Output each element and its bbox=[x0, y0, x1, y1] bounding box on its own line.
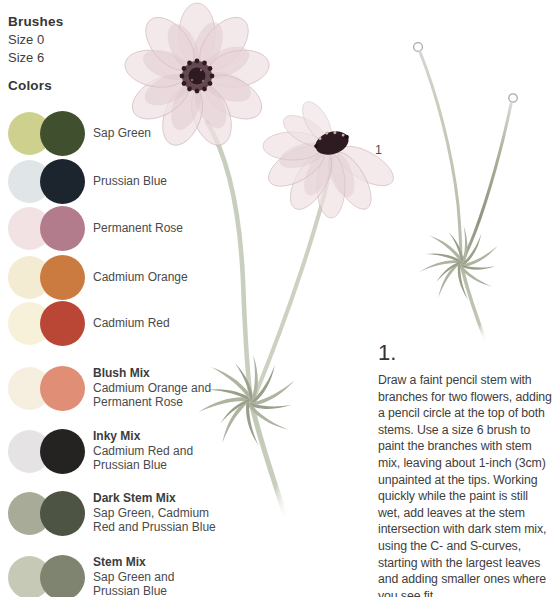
swatch-name: Dark Stem Mix bbox=[93, 491, 219, 506]
stem-main bbox=[251, 402, 287, 520]
swatch-dark-dot bbox=[40, 206, 85, 251]
swatch-row-blush-mix: Blush Mix Cadmium Orange and Permanent R… bbox=[8, 360, 219, 416]
step-stem-a bbox=[414, 43, 461, 262]
swatch-label: Cadmium Orange bbox=[93, 270, 219, 285]
flower-side bbox=[262, 97, 399, 218]
pencil-circle-a bbox=[414, 43, 423, 52]
swatch-label: Blush Mix Cadmium Orange and Permanent R… bbox=[93, 366, 219, 410]
swatch-label: Stem Mix Sap Green and Prussian Blue bbox=[93, 555, 219, 597]
flower-side-center bbox=[311, 126, 352, 159]
swatch-name: Permanent Rose bbox=[93, 221, 219, 236]
swatch-label: Prussian Blue bbox=[93, 174, 219, 189]
swatch-name: Inky Mix bbox=[93, 429, 219, 444]
swatch-dark-dot bbox=[40, 111, 85, 156]
colors-heading: Colors bbox=[8, 78, 52, 93]
swatch-description: Cadmium Red and Prussian Blue bbox=[93, 444, 219, 473]
swatch-label: Inky Mix Cadmium Red and Prussian Blue bbox=[93, 429, 219, 473]
swatch-row-permanent-rose: Permanent Rose bbox=[8, 200, 219, 256]
swatch-pair bbox=[8, 301, 85, 346]
brushes-heading: Brushes bbox=[8, 13, 63, 31]
swatch-row-cadmium-red: Cadmium Red bbox=[8, 295, 219, 351]
swatch-description: Cadmium Orange and Permanent Rose bbox=[93, 381, 219, 410]
swatch-pair bbox=[8, 159, 85, 204]
swatch-row-inky-mix: Inky Mix Cadmium Red and Prussian Blue bbox=[8, 423, 219, 479]
swatch-dark-dot bbox=[40, 301, 85, 346]
swatch-description: Sap Green and Prussian Blue bbox=[93, 570, 219, 597]
stem-right bbox=[254, 158, 333, 398]
swatch-dark-dot bbox=[40, 429, 85, 474]
swatch-row-dark-stem-mix: Dark Stem Mix Sap Green, Cadmium Red and… bbox=[8, 485, 219, 541]
swatch-label: Cadmium Red bbox=[93, 316, 219, 331]
figure-number-label: 1 bbox=[375, 143, 382, 157]
step-number: 1. bbox=[378, 341, 552, 365]
brush-size-item: Size 0 bbox=[8, 31, 63, 49]
flower-top-center bbox=[180, 59, 215, 94]
swatch-name: Blush Mix bbox=[93, 366, 219, 381]
swatch-dark-dot bbox=[40, 255, 85, 300]
brushes-block: Brushes Size 0 Size 6 bbox=[8, 13, 63, 67]
pencil-circle-b bbox=[509, 94, 517, 102]
swatch-name: Stem Mix bbox=[93, 555, 219, 570]
swatch-name: Cadmium Red bbox=[93, 316, 219, 331]
swatch-dark-dot bbox=[40, 555, 85, 597]
swatch-pair bbox=[8, 111, 85, 156]
swatch-pair bbox=[8, 366, 85, 411]
page: Brushes Size 0 Size 6 Colors Sap Green P… bbox=[0, 0, 552, 597]
swatch-dark-dot bbox=[40, 491, 85, 536]
step-stem-b bbox=[462, 94, 517, 264]
swatch-dark-dot bbox=[40, 366, 85, 411]
swatch-pair bbox=[8, 255, 85, 300]
swatch-pair bbox=[8, 491, 85, 536]
swatch-pair bbox=[8, 206, 85, 251]
swatch-description: Sap Green, Cadmium Red and Prussian Blue bbox=[93, 506, 219, 535]
leaf-spray-step bbox=[419, 225, 498, 299]
swatch-name: Sap Green bbox=[93, 126, 219, 141]
swatch-dark-dot bbox=[40, 159, 85, 204]
step-text: Draw a faint pencil stem with branches f… bbox=[378, 372, 552, 597]
step-stem-lower bbox=[462, 268, 486, 342]
swatch-pair bbox=[8, 555, 85, 597]
swatch-row-stem-mix: Stem Mix Sap Green and Prussian Blue bbox=[8, 549, 219, 597]
swatch-name: Cadmium Orange bbox=[93, 270, 219, 285]
swatch-label: Permanent Rose bbox=[93, 221, 219, 236]
swatch-pair bbox=[8, 429, 85, 474]
swatch-label: Dark Stem Mix Sap Green, Cadmium Red and… bbox=[93, 491, 219, 535]
swatch-name: Prussian Blue bbox=[93, 174, 219, 189]
brush-size-item: Size 6 bbox=[8, 49, 63, 67]
step-panel: 1. Draw a faint pencil stem with branche… bbox=[378, 341, 552, 597]
swatch-label: Sap Green bbox=[93, 126, 219, 141]
